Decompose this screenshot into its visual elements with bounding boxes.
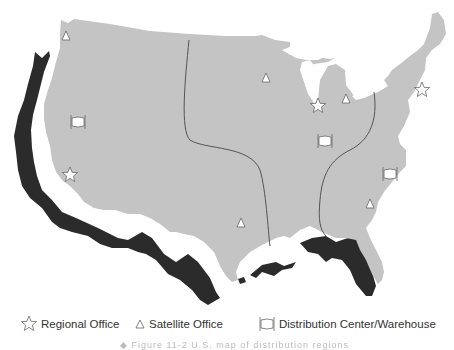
us-distribution-map bbox=[0, 0, 454, 305]
legend-satellite-office: Satellite Office bbox=[134, 312, 223, 336]
warehouse-icon bbox=[258, 315, 276, 333]
legend-label: Satellite Office bbox=[149, 318, 223, 330]
star-icon bbox=[20, 315, 38, 333]
legend-label: Regional Office bbox=[41, 318, 119, 330]
legend-distribution-center: Distribution Center/Warehouse bbox=[258, 312, 436, 336]
legend-regional-office: Regional Office bbox=[20, 312, 119, 336]
legend-label: Distribution Center/Warehouse bbox=[279, 318, 436, 330]
figure-caption: ◆ Figure 11-2 U.S. map of distribution r… bbox=[120, 340, 350, 350]
map-legend: Regional Office Satellite Office Distrib… bbox=[0, 312, 454, 336]
triangle-icon bbox=[134, 318, 146, 330]
